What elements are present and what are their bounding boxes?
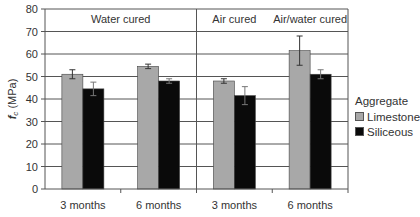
bar-limestone [289, 51, 310, 189]
siliceous-swatch [355, 127, 364, 136]
x-tick-label: 6 months [288, 199, 334, 211]
x-tick-label: 3 months [60, 199, 106, 211]
y-tick-label: 50 [26, 71, 38, 83]
y-tick-label: 10 [26, 161, 38, 173]
y-tick-label: 0 [32, 183, 38, 195]
limestone-swatch [355, 112, 364, 121]
y-axis-label: fc (MPa) [6, 79, 20, 120]
legend-label: Siliceous [367, 126, 413, 138]
y-tick-label: 30 [26, 116, 38, 128]
x-tick-label: 6 months [136, 199, 182, 211]
x-tick-label: 3 months [212, 199, 258, 211]
bar-limestone [138, 66, 159, 189]
svg-text:fc (MPa): fc (MPa) [6, 79, 20, 120]
bar-siliceous [234, 96, 255, 189]
y-tick-label: 80 [26, 3, 38, 15]
y-tick-label: 40 [26, 93, 38, 105]
y-tick-label: 60 [26, 48, 38, 60]
y-tick-label: 70 [26, 26, 38, 38]
bar-siliceous [83, 89, 104, 189]
legend-title: Aggregate [355, 95, 420, 107]
bar-limestone [62, 74, 83, 189]
bar-siliceous [159, 81, 180, 189]
legend-label: Limestone [367, 111, 420, 123]
legend-item-limestone: Limestone [355, 109, 420, 124]
bar-siliceous [310, 74, 331, 189]
legend: Aggregate Limestone Siliceous [355, 95, 420, 139]
panel-label: Air cured [212, 13, 256, 25]
y-tick-label: 20 [26, 138, 38, 150]
panel-label: Air/water cured [273, 13, 347, 25]
panel-label: Water cured [91, 13, 151, 25]
panel-labels: Water curedAir curedAir/water cured [91, 13, 347, 25]
legend-item-siliceous: Siliceous [355, 124, 420, 139]
bar-limestone [213, 81, 234, 189]
